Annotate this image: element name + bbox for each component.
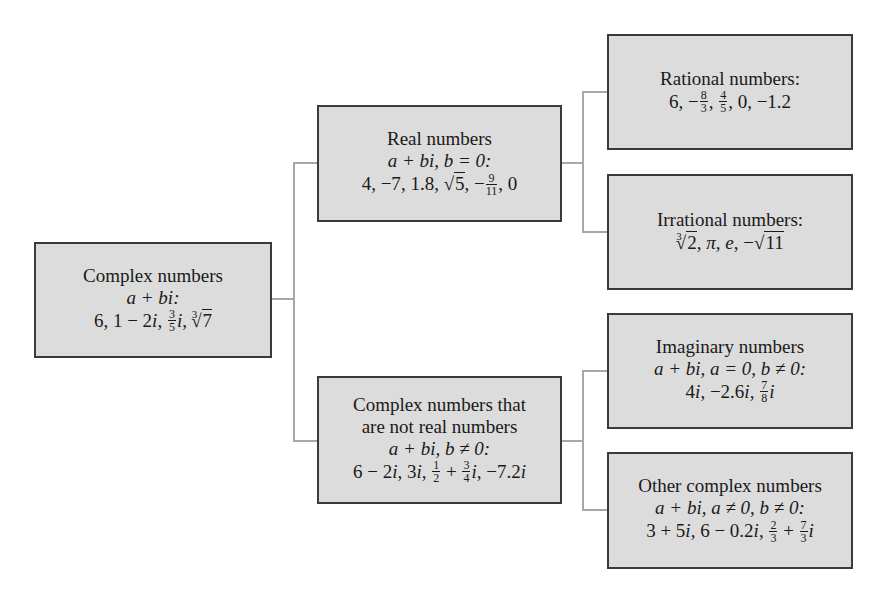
node-examples: 3√2, π, e, −√11 xyxy=(676,232,783,256)
node-formula: a + bi, b = 0: xyxy=(388,150,492,172)
node-irrational-numbers: Irrational numbers: 3√2, π, e, −√11 xyxy=(607,174,853,290)
square-root: √5 xyxy=(444,173,465,194)
connector-real-trunk xyxy=(582,91,584,232)
cube-root: 3√2 xyxy=(676,232,696,253)
node-title-line2: are not real numbers xyxy=(362,416,518,438)
node-formula: a + bi, a = 0, b ≠ 0: xyxy=(654,358,806,380)
fraction: 78 xyxy=(760,379,768,404)
node-examples: 3 + 5i, 6 − 0.2i, 23 + 73i xyxy=(646,520,814,545)
node-title: Real numbers xyxy=(387,128,492,150)
fraction: 23 xyxy=(769,519,777,544)
fraction: 34 xyxy=(462,459,470,484)
node-examples: 4, −7, 1.8, √5, −911, 0 xyxy=(362,173,518,198)
connector-to-imaginary xyxy=(582,370,607,372)
fraction: 73 xyxy=(800,519,808,544)
node-examples: 6, 1 − 2i, 35i, 3√7 xyxy=(94,310,212,335)
connector-to-irrational xyxy=(582,231,607,233)
node-title: Other complex numbers xyxy=(638,475,822,497)
node-rational-numbers: Rational numbers: 6, −83, 45, 0, −1.2 xyxy=(607,34,853,150)
fraction: 911 xyxy=(486,172,498,197)
connector-real-out xyxy=(561,162,584,164)
node-title: Complex numbers xyxy=(83,265,223,287)
node-formula: a + bi: xyxy=(127,287,180,309)
fraction: 12 xyxy=(432,459,440,484)
node-title-line1: Complex numbers that xyxy=(353,394,526,416)
fraction: 35 xyxy=(168,308,176,333)
node-other-complex-numbers: Other complex numbers a + bi, a ≠ 0, b ≠… xyxy=(607,452,853,569)
node-imaginary-numbers: Imaginary numbers a + bi, a = 0, b ≠ 0: … xyxy=(607,313,853,429)
connector-complex-out xyxy=(271,298,295,300)
node-formula: a + bi, b ≠ 0: xyxy=(389,438,490,460)
node-real-numbers: Real numbers a + bi, b = 0: 4, −7, 1.8, … xyxy=(317,105,562,222)
node-title: Irrational numbers: xyxy=(657,209,803,231)
cube-root: 3√7 xyxy=(192,310,212,331)
connector-to-rational xyxy=(582,91,607,93)
square-root: √11 xyxy=(754,232,784,253)
fraction: 45 xyxy=(719,89,727,114)
connector-nonreal-trunk xyxy=(582,370,584,510)
node-title: Rational numbers: xyxy=(660,68,800,90)
connector-complex-trunk xyxy=(293,162,295,442)
node-complex-numbers: Complex numbers a + bi: 6, 1 − 2i, 35i, … xyxy=(34,242,272,358)
connector-to-real xyxy=(293,162,317,164)
node-examples: 6, −83, 45, 0, −1.2 xyxy=(669,91,791,116)
node-examples: 4i, −2.6i, 78i xyxy=(686,381,775,406)
connector-to-nonreal xyxy=(293,440,317,442)
fraction: 83 xyxy=(700,89,708,114)
node-nonreal-complex-numbers: Complex numbers that are not real number… xyxy=(317,376,562,504)
node-examples: 6 − 2i, 3i, 12 + 34i, −7.2i xyxy=(353,461,526,486)
connector-to-other xyxy=(582,509,607,511)
node-title: Imaginary numbers xyxy=(656,336,804,358)
connector-nonreal-out xyxy=(561,440,584,442)
node-formula: a + bi, a ≠ 0, b ≠ 0: xyxy=(655,497,805,519)
